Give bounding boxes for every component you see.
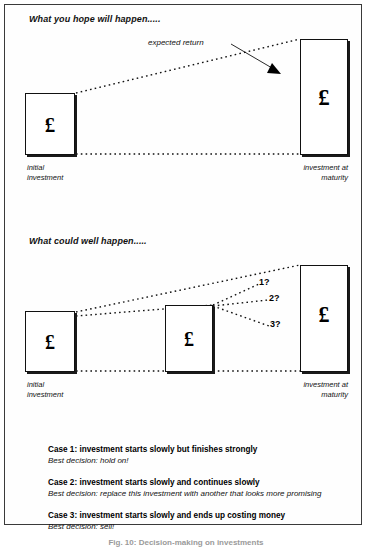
figure-caption: Fig. 10: Decision-making on investments xyxy=(0,538,372,550)
panel-title-hope: What you hope will happen..... xyxy=(29,14,161,24)
case-decision: Best decision: sell! xyxy=(48,521,348,532)
branch-label-3: 3? xyxy=(270,319,281,329)
caption-line-2: investment xyxy=(27,390,63,400)
pound-icon: £ xyxy=(302,84,346,111)
case-decision: Best decision: hold on! xyxy=(48,455,348,466)
caption-line-1: investment at xyxy=(256,163,348,173)
caption-line-2: investment xyxy=(27,173,63,183)
branch-label-1: 1? xyxy=(259,277,270,287)
case-decision: Best decision: replace this investment w… xyxy=(48,488,348,499)
box-maturity-hope: £ xyxy=(300,39,348,155)
expected-return-label: expected return xyxy=(148,38,204,47)
box-initial-investment-reality: £ xyxy=(25,311,75,372)
pound-icon: £ xyxy=(167,327,211,352)
case-item: Case 1: investment starts slowly but fin… xyxy=(48,444,348,466)
pound-icon: £ xyxy=(27,330,73,355)
caption-line-2: maturity xyxy=(256,173,348,183)
caption-line-1: initial xyxy=(27,380,63,390)
case-item: Case 3: investment starts slowly and end… xyxy=(48,510,348,532)
pound-icon: £ xyxy=(27,112,73,138)
case-item: Case 2: investment starts slowly and con… xyxy=(48,477,348,499)
caption-line-1: investment at xyxy=(256,380,348,390)
caption-maturity-hope: investment at maturity xyxy=(256,163,348,183)
caption-maturity-reality: investment at maturity xyxy=(256,380,348,400)
case-heading: Case 1: investment starts slowly but fin… xyxy=(48,444,348,455)
case-list: Case 1: investment starts slowly but fin… xyxy=(48,444,348,543)
panel-title-reality: What could well happen..... xyxy=(29,236,147,246)
caption-initial-investment-hope: initial investment xyxy=(27,163,63,183)
pound-icon: £ xyxy=(302,302,346,328)
figure-container: What you hope will happen..... expected … xyxy=(0,0,372,550)
case-heading: Case 2: investment starts slowly and con… xyxy=(48,477,348,488)
box-interim-investment-reality: £ xyxy=(165,305,213,372)
caption-line-2: maturity xyxy=(256,390,348,400)
box-initial-investment-hope: £ xyxy=(25,93,75,155)
caption-line-1: initial xyxy=(27,163,63,173)
box-maturity-reality: £ xyxy=(300,265,348,372)
branch-label-2: 2? xyxy=(269,293,280,303)
caption-initial-investment-reality: initial investment xyxy=(27,380,63,400)
case-heading: Case 3: investment starts slowly and end… xyxy=(48,510,348,521)
